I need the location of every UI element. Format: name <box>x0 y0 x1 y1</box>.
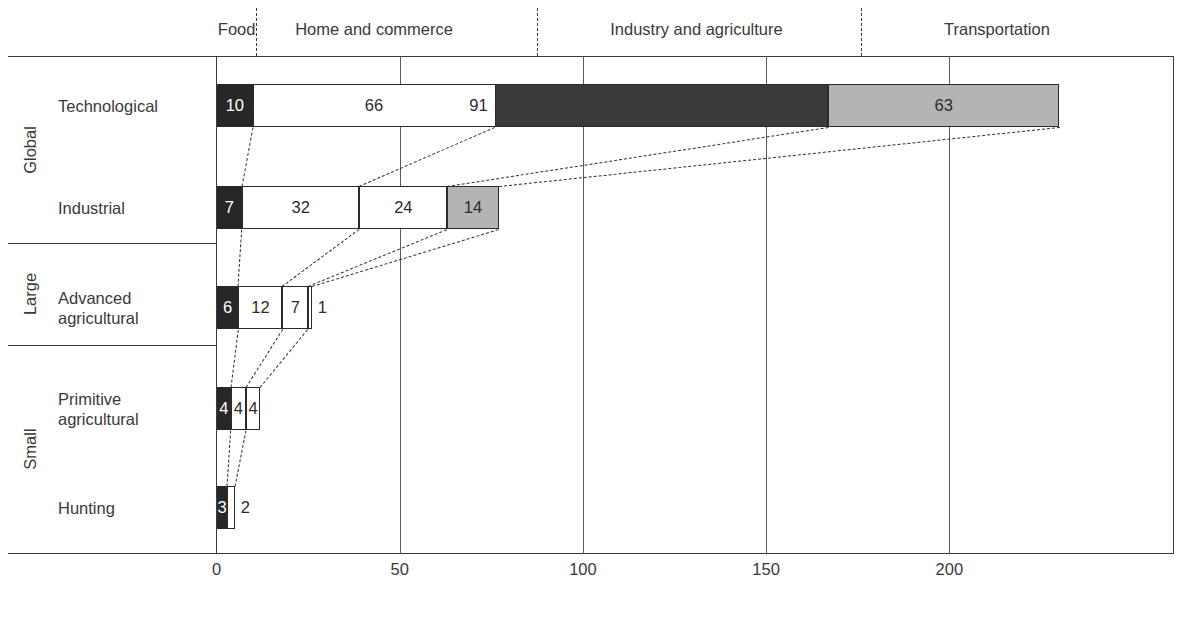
bar-segment: 66 <box>253 84 495 127</box>
bar-segment: 14 <box>447 186 498 229</box>
bar-segment: 4 <box>217 387 232 430</box>
bar-segment: 7 <box>282 286 308 329</box>
bar-value-label-outside: 1 <box>318 286 327 329</box>
bar-segment: 4 <box>246 387 261 430</box>
bar-segment: 6 <box>217 286 239 329</box>
x-tick-label-100: 100 <box>543 560 623 579</box>
bar-value-label: 4 <box>249 399 258 418</box>
chart-canvas: FoodHome and commerceIndustry and agricu… <box>0 0 1183 617</box>
category-divider-2 <box>537 8 538 56</box>
group-separator-1 <box>8 243 217 244</box>
gridline-150 <box>766 56 767 554</box>
bar-value-label: 24 <box>394 198 412 217</box>
category-divider-1 <box>256 8 257 56</box>
bar-value-label: 63 <box>935 96 953 115</box>
connector-line <box>359 127 495 187</box>
bar-value-label: 6 <box>223 298 232 317</box>
bar-value-label-outside: 2 <box>241 486 250 529</box>
bar-value-label: 12 <box>251 298 269 317</box>
bar-value-label: 10 <box>226 96 244 115</box>
row-label-technological: Technological <box>58 96 158 116</box>
bar-segment: 7 <box>217 186 243 229</box>
x-tick-label-200: 200 <box>909 560 989 579</box>
row-label-primitive-agricultural: Primitive agricultural <box>58 389 139 429</box>
bar-value-label-plaque: 91 <box>462 84 496 127</box>
gridline-50 <box>400 56 401 554</box>
connector-line <box>234 430 246 486</box>
bar-segment <box>308 286 312 329</box>
x-tick-label-50: 50 <box>360 560 440 579</box>
bar-segment <box>227 486 234 529</box>
row-label-advanced-agricultural: Advanced agricultural <box>58 288 139 328</box>
bar-segment: 3 <box>217 486 228 529</box>
plot-frame-top <box>8 56 1174 57</box>
bar-segment: 10 <box>217 84 254 127</box>
x-tick-label-0: 0 <box>177 560 257 579</box>
gridline-100 <box>583 56 584 554</box>
group-label-large: Large <box>21 273 40 315</box>
bar-value-label: 4 <box>219 399 228 418</box>
gridline-200 <box>949 56 950 554</box>
row-label-hunting: Hunting <box>58 498 115 518</box>
group-separator-2 <box>8 345 217 346</box>
x-tick-label-150: 150 <box>726 560 806 579</box>
bar-segment: 12 <box>238 286 282 329</box>
bar-value-label: 4 <box>234 399 243 418</box>
group-label-global: Global <box>21 126 40 174</box>
connector-line <box>238 229 243 286</box>
bar-value-label: 66 <box>365 96 383 115</box>
connector-line <box>282 229 360 287</box>
row-label-industrial: Industrial <box>58 198 125 218</box>
bar-value-label: 7 <box>225 198 234 217</box>
bar-value-label: 32 <box>292 198 310 217</box>
connector-line <box>231 329 239 387</box>
connector-line <box>242 127 254 186</box>
bar-segment: 4 <box>231 387 246 430</box>
bar-segment: 24 <box>359 186 447 229</box>
connector-line <box>227 430 232 486</box>
bar-segment: 32 <box>242 186 359 229</box>
bar-value-label: 14 <box>464 198 482 217</box>
connector-line <box>312 229 499 287</box>
category-label-transportation: Transportation <box>797 20 1183 39</box>
connector-line <box>245 329 282 388</box>
connector-line <box>260 329 308 388</box>
group-label-small: Small <box>21 428 40 469</box>
group-separator-3 <box>8 553 217 554</box>
bar-segment <box>495 84 828 127</box>
bar-segment: 63 <box>828 84 1059 127</box>
category-divider-3 <box>861 8 862 56</box>
bar-value-label: 7 <box>291 298 300 317</box>
connector-line <box>308 229 448 287</box>
bar-value-label: 3 <box>217 498 226 517</box>
plot-frame-right <box>1173 56 1174 554</box>
